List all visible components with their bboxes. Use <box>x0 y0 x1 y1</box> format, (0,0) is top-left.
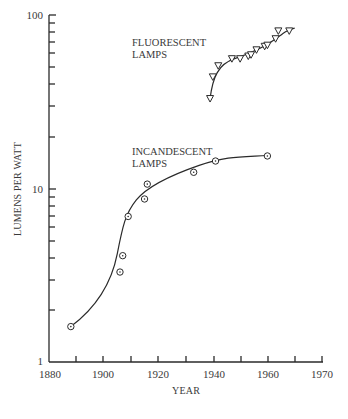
lumens-per-watt-chart: 100 10 1 1880 1900 1920 1940 1960 1970 Y… <box>0 0 348 419</box>
circle-marker-dot <box>144 198 146 200</box>
fluorescent-data-points <box>207 28 293 102</box>
x-axis-title: YEAR <box>172 385 200 396</box>
fluorescent-label-line1: FLUORESCENT <box>132 37 207 48</box>
x-tick-label-1920: 1920 <box>147 368 170 380</box>
y-tick-label-1: 1 <box>38 355 44 367</box>
triangle-marker <box>275 28 282 35</box>
y-axis-title: LUMENS PER WATT <box>12 142 23 236</box>
circle-marker-dot <box>122 255 124 257</box>
x-tick-label-1960: 1960 <box>257 368 280 380</box>
y-axis <box>49 15 56 362</box>
x-tick-label-1900: 1900 <box>92 368 115 380</box>
circle-marker-dot <box>127 216 129 218</box>
x-tick-label-1970: 1970 <box>311 368 334 380</box>
x-tick-label-1940: 1940 <box>203 368 226 380</box>
y-tick-label-10: 10 <box>32 183 44 195</box>
circle-marker-dot <box>267 155 269 157</box>
triangle-marker <box>207 96 214 103</box>
fluorescent-label-line2: LAMPS <box>132 49 167 60</box>
incandescent-data-points <box>68 153 271 330</box>
incandescent-label-line1: INCANDESCENT <box>132 146 213 157</box>
incandescent-label-line2: LAMPS <box>132 158 167 169</box>
x-axis <box>49 356 323 362</box>
circle-marker-dot <box>70 326 72 328</box>
x-tick-label-1880: 1880 <box>39 368 62 380</box>
incandescent-trend-curve <box>71 155 268 326</box>
y-tick-label-100: 100 <box>27 9 44 21</box>
circle-marker-dot <box>193 171 195 173</box>
fluorescent-trend-curve <box>210 28 295 98</box>
circle-marker-dot <box>215 160 217 162</box>
circle-marker-dot <box>119 271 121 273</box>
circle-marker-dot <box>146 183 148 185</box>
triangle-marker <box>237 56 244 63</box>
